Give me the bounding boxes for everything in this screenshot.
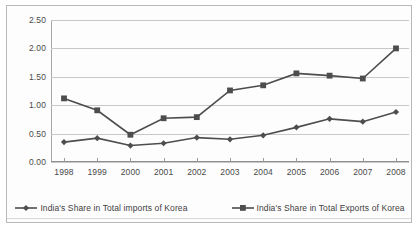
x-axis-tick-label: 2000 bbox=[121, 167, 140, 177]
x-axis-tick-label: 2001 bbox=[154, 167, 173, 177]
data-point-square bbox=[260, 82, 266, 88]
y-axis-tick-label: 1.50 bbox=[29, 72, 46, 82]
data-point-square bbox=[194, 114, 200, 120]
legend-square-icon bbox=[232, 203, 254, 213]
x-axis-tick-label: 1998 bbox=[54, 167, 73, 177]
x-axis-tick-label: 2006 bbox=[320, 167, 339, 177]
y-axis-tick-label: 1.00 bbox=[29, 100, 46, 110]
plot-area: 0.000.501.001.502.002.50 199819992000200… bbox=[51, 20, 409, 162]
legend-diamond-icon bbox=[15, 203, 37, 213]
data-point-diamond bbox=[127, 142, 133, 148]
x-axis-tick-label: 2007 bbox=[353, 167, 372, 177]
data-point-square bbox=[360, 76, 366, 82]
data-point-square bbox=[393, 46, 399, 52]
data-point-diamond bbox=[260, 132, 266, 138]
legend-item-1[interactable]: India's Share in Total imports of Korea bbox=[15, 203, 187, 213]
x-axis-tick-label: 2003 bbox=[220, 167, 239, 177]
chart-container: 0.000.501.001.502.002.50 199819992000200… bbox=[6, 5, 412, 223]
chart-legend: India's Share in Total imports of KoreaI… bbox=[7, 196, 413, 220]
data-point-square bbox=[94, 107, 100, 113]
data-point-diamond bbox=[194, 134, 200, 140]
data-point-square bbox=[327, 73, 333, 79]
data-point-diamond bbox=[393, 109, 399, 115]
data-point-diamond bbox=[94, 135, 100, 141]
x-axis-tick-label: 2002 bbox=[187, 167, 206, 177]
data-point-diamond bbox=[227, 136, 233, 142]
y-axis-tick-label: 0.00 bbox=[29, 157, 46, 167]
data-point-diamond bbox=[360, 119, 366, 125]
legend-label: India's Share in Total imports of Korea bbox=[40, 203, 187, 213]
series-1 bbox=[61, 109, 399, 149]
x-axis-tick-label: 1999 bbox=[88, 167, 107, 177]
x-axis-tick-label: 2004 bbox=[254, 167, 273, 177]
x-axis-tick-label: 2005 bbox=[287, 167, 306, 177]
data-point-square bbox=[161, 115, 167, 121]
series-2 bbox=[61, 46, 399, 138]
data-point-diamond bbox=[161, 140, 167, 146]
x-axis-tick-label: 2008 bbox=[386, 167, 405, 177]
data-point-square bbox=[128, 132, 134, 138]
legend-separator bbox=[7, 218, 411, 219]
data-point-square bbox=[294, 70, 300, 76]
legend-item-2[interactable]: India's Share in Total Exports of Korea bbox=[232, 203, 405, 213]
y-axis-tick-label: 0.50 bbox=[29, 129, 46, 139]
series-plot bbox=[51, 20, 409, 162]
data-point-square bbox=[227, 88, 233, 94]
legend-label: India's Share in Total Exports of Korea bbox=[257, 203, 405, 213]
data-point-diamond bbox=[327, 116, 333, 122]
data-point-diamond bbox=[293, 124, 299, 130]
data-point-diamond bbox=[61, 139, 67, 145]
gridline bbox=[51, 162, 409, 163]
y-axis-tick-label: 2.00 bbox=[29, 43, 46, 53]
data-point-square bbox=[61, 95, 67, 101]
y-axis-tick-label: 2.50 bbox=[29, 15, 46, 25]
